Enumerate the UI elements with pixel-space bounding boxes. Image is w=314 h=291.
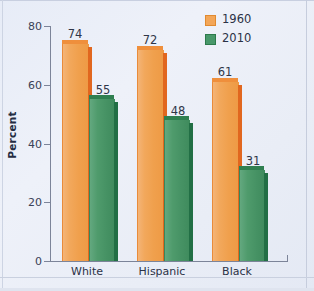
bar-side-face (114, 102, 118, 261)
bar-front-face (62, 44, 89, 261)
bar-white-2010[interactable] (89, 99, 114, 261)
orange-swatch-icon (205, 15, 216, 26)
bar-front-face (164, 120, 190, 261)
bar-value-white-2010: 55 (88, 85, 118, 97)
bar-chart: Percent 80 60 40 20 0 74 55 White 72 48 … (0, 0, 314, 291)
y-tick-label-0: 0 (12, 256, 42, 267)
bar-value-hispanic-2010: 48 (163, 106, 193, 118)
y-tick-40 (44, 144, 50, 145)
y-tick-20 (44, 202, 50, 203)
frame-right-border (306, 0, 307, 291)
bar-white-1960[interactable] (62, 44, 88, 261)
legend-label-2010: 2010 (222, 33, 251, 45)
y-tick-label-20: 20 (12, 197, 42, 208)
bar-side-face (264, 173, 268, 261)
frame-left-border (2, 0, 3, 291)
legend-item-2010[interactable]: 2010 (205, 31, 251, 47)
legend-item-1960[interactable]: 1960 (205, 12, 251, 28)
y-tick-0 (44, 261, 50, 262)
bar-front-face (137, 50, 164, 262)
legend: 1960 2010 (205, 12, 251, 50)
bar-black-1960[interactable] (212, 82, 238, 261)
green-swatch-icon (205, 34, 216, 45)
x-tick-label-white: White (47, 266, 127, 277)
bar-hispanic-2010[interactable] (164, 120, 189, 261)
y-tick-80 (44, 26, 50, 27)
bar-hispanic-1960[interactable] (137, 50, 163, 262)
x-tick-label-black: Black (197, 266, 277, 277)
y-tick-60 (44, 85, 50, 86)
bar-value-white-1960: 74 (60, 29, 90, 41)
y-axis-title: Percent (6, 105, 18, 165)
x-axis-line (50, 261, 288, 262)
y-axis-line (50, 26, 51, 262)
x-axis-end-cap (287, 255, 288, 262)
frame-top-border (0, 0, 314, 1)
bar-side-face (189, 123, 193, 261)
bar-value-hispanic-1960: 72 (135, 35, 165, 47)
y-tick-label-80: 80 (12, 21, 42, 32)
bar-front-face (239, 170, 265, 261)
bar-black-2010[interactable] (239, 170, 264, 261)
bar-value-black-2010: 31 (238, 156, 268, 168)
y-tick-label-60: 60 (12, 80, 42, 91)
legend-label-1960: 1960 (222, 14, 251, 26)
bar-value-black-1960: 61 (210, 67, 240, 79)
x-tick-label-hispanic: Hispanic (122, 266, 202, 277)
bar-front-face (212, 82, 239, 261)
bar-front-face (89, 99, 115, 261)
y-tick-label-40: 40 (12, 139, 42, 150)
